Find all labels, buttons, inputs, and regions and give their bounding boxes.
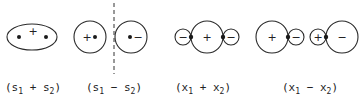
label-s1-plus-s2: (s1 + s2)	[5, 81, 61, 96]
sign-minus: −	[291, 31, 300, 44]
nucleus-dot	[189, 35, 193, 39]
nucleus-dot	[128, 35, 132, 39]
panel-s1-minus-s2: + −	[74, 3, 147, 74]
panel-s1-plus-s2: +	[7, 24, 57, 50]
sign-plus: +	[28, 25, 37, 38]
sign-plus: +	[267, 31, 276, 44]
nucleus-dot	[93, 35, 97, 39]
label-s1-minus-s2: (s1 − s2)	[86, 81, 142, 96]
label-x1-plus-x2: (x1 + x2)	[175, 81, 231, 96]
sign-plus: +	[82, 31, 91, 44]
sign-minus: −	[226, 31, 235, 44]
nucleus-dot	[324, 35, 328, 39]
panel-x1-minus-x2: + − + −	[256, 21, 358, 53]
sign-minus: −	[337, 31, 346, 44]
sign-plus: +	[313, 31, 322, 44]
label-x1-minus-x2: (x1 − x2)	[282, 81, 338, 96]
nucleus-dot	[44, 35, 48, 39]
nucleus-dot	[221, 35, 225, 39]
nucleus-dot	[286, 35, 290, 39]
panel-x1-plus-x2: − + −	[175, 21, 239, 53]
sign-plus: +	[202, 31, 211, 44]
nucleus-dot	[17, 35, 21, 39]
sign-minus: −	[178, 31, 187, 44]
sign-minus: −	[133, 31, 142, 44]
